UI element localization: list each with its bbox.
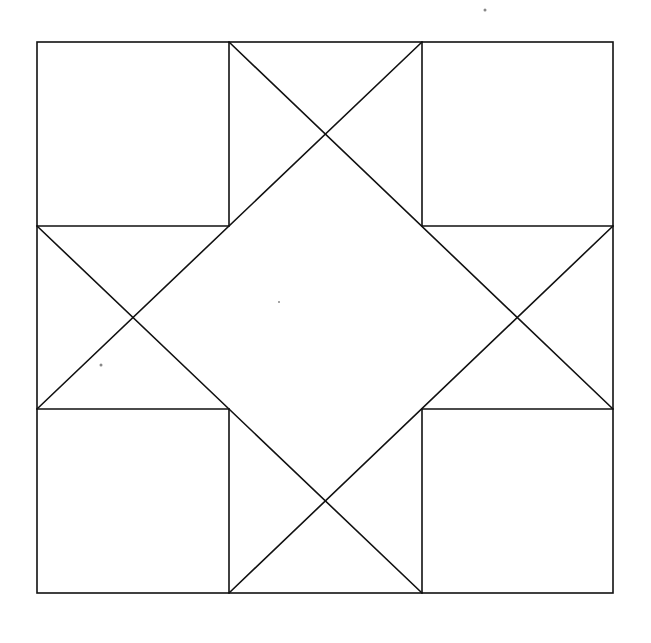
paper-speck [484, 9, 487, 12]
quilt-block-diagram [0, 0, 651, 643]
paper-speck [278, 301, 280, 303]
paper-speck [100, 364, 103, 367]
outer-square [37, 42, 613, 593]
